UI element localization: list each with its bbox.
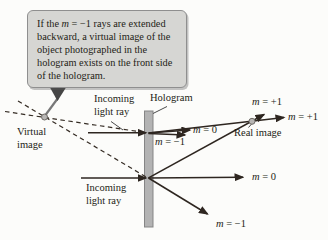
callout-tail-triangle: [50, 88, 66, 102]
explanation-callout: If the m = −1 rays are extended backward…: [27, 10, 187, 88]
real-image-label: Real image: [234, 127, 282, 140]
callout-text-line: of the hologram.: [37, 69, 178, 82]
callout-text-line: object photographed in the: [37, 43, 178, 56]
incoming-light-ray-bottom-label: Incoming light ray: [86, 182, 144, 207]
label-m-minus1-bottom: m = −1: [216, 218, 246, 231]
real-image-dot: [249, 118, 255, 124]
ray-m-minus1-bottom: [149, 178, 208, 214]
callout-text-line: backward, a virtual image of the: [37, 30, 178, 43]
incoming-light-ray-top-label: Incoming light ray: [94, 93, 152, 118]
virtual-image-label: Virtual image: [17, 126, 63, 151]
virtual-image-dot: [42, 114, 48, 120]
label-m0-bottom: m = 0: [252, 171, 276, 184]
ray-m-minus1-top: [149, 134, 186, 136]
callout-tail-line: [46, 98, 59, 115]
callout-text-line: If the m = −1 rays are extended: [37, 17, 178, 30]
callout-text-line: hologram exists on the front side: [37, 56, 178, 69]
hologram-bar: [145, 111, 154, 227]
label-m0-top: m = 0: [193, 124, 217, 137]
hologram-label: Hologram: [150, 92, 193, 105]
ray-m0-bottom: [149, 177, 244, 178]
label-m-plus1-right: m = +1: [288, 111, 318, 124]
hologram-diagram: If the m = −1 rays are extended backward…: [0, 0, 328, 240]
label-m-plus1-top: m = +1: [252, 96, 282, 109]
label-m-minus1-top: m = −1: [155, 136, 185, 149]
hologram-leader-line: [153, 107, 167, 114]
